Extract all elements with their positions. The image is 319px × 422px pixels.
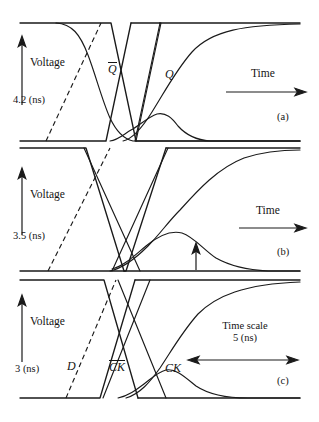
panel-c-ckbar-text: CK (109, 360, 125, 373)
panel-a-panel-label: (a) (277, 112, 289, 123)
panel-a-trace-q (123, 24, 300, 141)
panel-c-trace-ck (118, 280, 166, 398)
panel-b-voltage-label: Voltage (30, 189, 65, 201)
panel-a-signal-label-qbar: Q (108, 62, 117, 75)
panel-c-signal-label-ck: CK (165, 362, 181, 374)
panel-b-time-arrow-icon (239, 224, 306, 231)
panel-a-delay-label: 4.2 (ns) (13, 95, 45, 106)
panel-c-panel-label: (c) (277, 376, 289, 387)
panel-c-trace-rail-high-left (20, 280, 138, 398)
panel-c-time-scale-title: Time scale (222, 320, 267, 331)
panel-c-time-scale-arrow-icon (188, 356, 298, 363)
panel-b-trace-d-dashed (48, 148, 110, 271)
panel-a-qbar-text: Q (108, 62, 117, 75)
panel-c-trace-rail-low-left (20, 280, 135, 398)
panel-b-voltage-arrow-icon (18, 168, 25, 235)
panel-b-glitch-marker-arrow-icon (192, 243, 199, 270)
panel-a-time-arrow-icon (226, 88, 306, 95)
panel-b-trace-rail-high-left (20, 148, 124, 271)
panel-b-time-label: Time (256, 205, 280, 217)
panel-a-trace-d-dashed (46, 23, 101, 141)
panel-a-trace-ck (136, 23, 161, 141)
panel-c-signal-label-ckbar: CK (109, 360, 125, 373)
panel-b-trace-qbar (112, 232, 300, 271)
panel-a-voltage-label: Voltage (30, 57, 65, 69)
panel-b-trace-ckbar (84, 148, 140, 271)
panel-c-voltage-arrow-icon (18, 295, 25, 362)
panel-a-traces (20, 23, 300, 141)
panel-b-trace-ck (112, 148, 168, 271)
panel-a-signal-label-q: Q (165, 68, 174, 80)
panel-c-signal-label-d: D (67, 360, 76, 372)
panel-b-delay-label: 3.5 (ns) (13, 231, 45, 242)
panel-c-time-scale-value: 5 (ns) (233, 332, 257, 343)
panel-c-trace-qbar (118, 370, 300, 398)
panel-a-time-label: Time (251, 68, 275, 80)
waveform-figure: Voltage 4.2 (ns) Time Q Q (a) Voltage 3.… (0, 0, 319, 422)
panel-b-panel-label: (b) (277, 247, 289, 258)
panel-c-voltage-label: Voltage (30, 316, 65, 328)
panel-a-trace-steep-down (135, 23, 160, 141)
panel-c-trace-ckbar (103, 280, 150, 398)
panel-c-delay-label: 3 (ns) (15, 364, 39, 375)
panel-c-time-scale: Time scale 5 (ns) (203, 320, 287, 344)
